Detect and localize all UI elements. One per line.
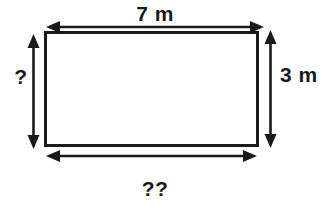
dimension-label-right: 3 m: [280, 64, 318, 85]
dimension-label-top: 7 m: [0, 3, 310, 24]
double-arrow-vertical-icon-left: [28, 34, 40, 149]
rectangle-outline-icon: [46, 33, 258, 146]
double-arrow-horizontal-icon-bottom: [46, 150, 257, 162]
geometry-figure-canvas: 7 m ? 3 m ??: [0, 0, 332, 214]
double-arrow-vertical-icon-right: [265, 30, 277, 148]
dimension-label-bottom: ??: [0, 178, 310, 199]
dimension-label-left: ?: [11, 66, 31, 87]
